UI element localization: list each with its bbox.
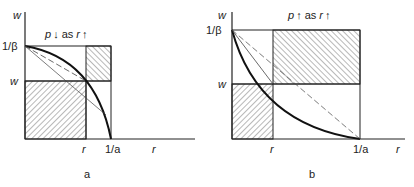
- upper-right-hatched-rect: [273, 30, 360, 84]
- panel-caption: a: [84, 168, 91, 180]
- x-tick-r: r: [82, 143, 87, 155]
- y-axis-label: w: [218, 9, 227, 21]
- x-axis-label: r: [152, 143, 157, 155]
- panel-a: w p↓ asr↑ 1/β w r 1/a r a: [2, 9, 195, 180]
- panel-b: w p↑ asr↑ 1/β w r 1/a r b: [206, 9, 405, 180]
- y-tick-inv-beta: 1/β: [2, 40, 18, 52]
- panel-title: p↑ asr↑: [287, 9, 330, 21]
- y-axis-label: w: [13, 9, 22, 21]
- y-tick-inv-beta: 1/β: [206, 24, 222, 36]
- x-axis-label: r: [396, 143, 401, 155]
- dashed-chord: [25, 46, 86, 81]
- upper-right-hatched-rect: [86, 46, 111, 81]
- lower-left-hatched-rect: [25, 81, 86, 139]
- lower-left-hatched-rect: [232, 84, 273, 139]
- x-tick-inv-a: 1/a: [105, 143, 121, 155]
- panel-caption: b: [309, 168, 315, 180]
- x-tick-inv-a: 1/a: [353, 143, 369, 155]
- y-tick-w: w: [10, 75, 19, 87]
- panel-title: p↓ asr↑: [44, 28, 87, 40]
- diagram-canvas: w p↓ asr↑ 1/β w r 1/a r a w p↑ asr↑ 1/β …: [0, 0, 414, 187]
- x-tick-r: r: [270, 143, 275, 155]
- y-tick-w: w: [218, 78, 227, 90]
